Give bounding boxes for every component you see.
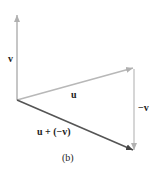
vector-u-plus-neg-v: [17, 100, 133, 150]
label-u: u: [71, 89, 77, 100]
label-v: v: [8, 53, 13, 64]
caption: (b): [62, 152, 74, 164]
label-neg-v: −v: [138, 102, 149, 113]
label-u-plus-neg-v: u + (−v): [37, 126, 71, 138]
vector-subtraction-diagram: v u −v u + (−v) (b): [0, 0, 158, 171]
